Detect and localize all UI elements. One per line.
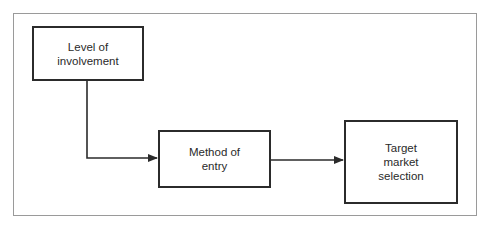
node-target-market-selection: Target market selection [344, 120, 458, 204]
node-level-of-involvement: Level of involvement [32, 26, 144, 81]
node-method-of-entry: Method of entry [158, 130, 271, 188]
node-label: Level of involvement [57, 40, 118, 68]
node-label: Target market selection [378, 141, 423, 183]
node-label: Method of entry [189, 145, 240, 173]
edge-level-to-method [87, 81, 157, 158]
